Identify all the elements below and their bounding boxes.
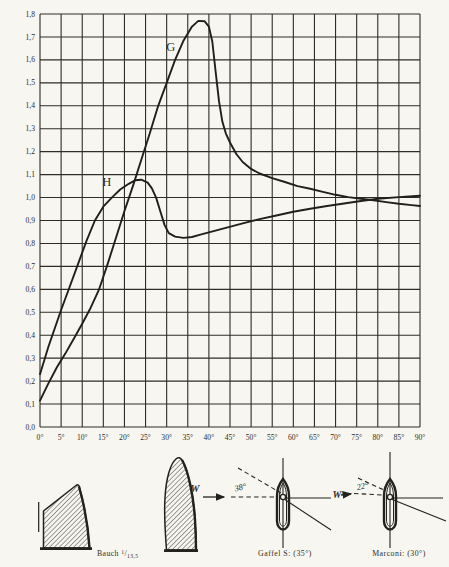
marconi-wind-letter: W	[333, 489, 343, 500]
x-tick-label: 40°	[204, 433, 215, 442]
y-tick-label: 1,0	[26, 193, 36, 202]
bauch-label: Bauch 1/13,5	[97, 549, 138, 559]
x-tick-label: 85°	[394, 433, 405, 442]
y-tick-label: 0,2	[26, 377, 36, 386]
marconi-boom-line	[391, 499, 446, 521]
x-tick-label: 60°	[288, 433, 299, 442]
x-tick-label: 35°	[182, 433, 193, 442]
x-tick-label: 0°	[37, 433, 44, 442]
x-tick-label: 50°	[246, 433, 257, 442]
y-tick-label: 1,5	[26, 78, 36, 87]
x-tick-label: 75°	[351, 433, 362, 442]
gaffel-boat-diagram: W 38° Gaffel S: (35°)	[191, 458, 331, 558]
curve-label-G: G	[166, 40, 175, 54]
y-tick-label: 0,9	[26, 216, 36, 225]
marconi-boat-diagram: W 22° Marconi: (30°)	[333, 452, 446, 558]
y-tick-label: 1,7	[26, 33, 36, 42]
y-tick-label: 1,8	[26, 10, 36, 19]
marconi-wind-dashed-line	[354, 494, 383, 496]
y-tick-label: 0,6	[26, 285, 36, 294]
marconi-sail-shape	[165, 458, 196, 550]
x-tick-label: 55°	[267, 433, 278, 442]
scanned-book-page: 0,00,10,20,30,40,50,60,70,80,91,01,11,21…	[0, 0, 449, 567]
x-tick-label: 20°	[119, 433, 130, 442]
chart-grid	[40, 14, 420, 427]
y-tick-label: 0,8	[26, 239, 36, 248]
y-tick-label: 1,2	[26, 147, 36, 156]
x-tick-label: 45°	[225, 433, 236, 442]
y-tick-label: 1,4	[26, 101, 36, 110]
y-tick-label: 0,3	[26, 354, 36, 363]
y-tick-label: 0,1	[26, 400, 36, 409]
y-tick-label: 0,4	[26, 331, 36, 340]
marconi-caption: Marconi: (30°)	[372, 549, 426, 558]
gaffel-caption: Gaffel S: (35°)	[258, 549, 312, 558]
marconi-wind-arrow	[341, 494, 351, 495]
x-tick-label: 25°	[140, 433, 151, 442]
gaffel-wind-letter: W	[191, 483, 201, 494]
y-tick-label: 1,1	[26, 170, 36, 179]
chart-axis-ticks: 0,00,10,20,30,40,50,60,70,80,91,01,11,21…	[26, 10, 426, 442]
x-tick-label: 5°	[58, 433, 65, 442]
y-tick-label: 1,3	[26, 124, 36, 133]
marconi-angle-label: 22°	[356, 480, 370, 492]
gaffel-angle-label: 38°	[232, 481, 248, 494]
marconi-mast-circle	[387, 494, 392, 499]
y-tick-label: 0,5	[26, 308, 36, 317]
gaffel-mast-circle	[280, 494, 285, 499]
gaff-sail-shape	[44, 485, 90, 548]
x-tick-label: 30°	[161, 433, 172, 442]
grid-lines	[40, 14, 420, 427]
x-tick-label: 90°	[415, 433, 426, 442]
y-tick-label: 0,7	[26, 262, 36, 271]
x-tick-label: 10°	[77, 433, 88, 442]
x-tick-label: 70°	[330, 433, 341, 442]
x-tick-label: 65°	[309, 433, 320, 442]
curve-label-H: H	[102, 175, 111, 189]
y-tick-label: 0,0	[26, 423, 36, 432]
x-tick-label: 15°	[98, 433, 109, 442]
sail-profile-drawings: Bauch 1/13,5	[39, 458, 198, 559]
x-tick-label: 80°	[372, 433, 383, 442]
y-tick-label: 1,6	[26, 55, 36, 64]
sail-polar-figure: 0,00,10,20,30,40,50,60,70,80,91,01,11,21…	[0, 0, 449, 567]
gaffel-boom-line	[284, 499, 331, 530]
